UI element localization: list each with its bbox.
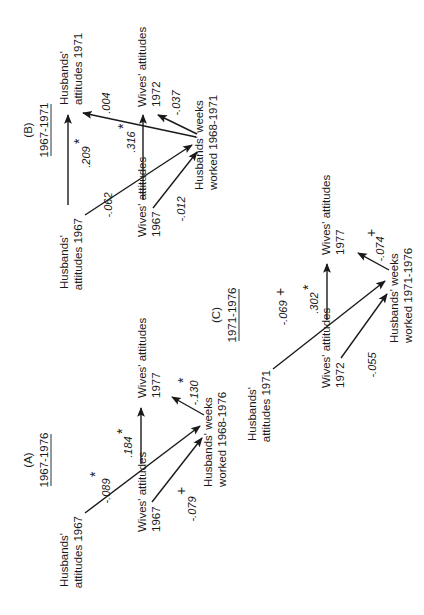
svg-text:1977: 1977 <box>150 372 162 398</box>
coef-a-wives-to-weeks: -.079 <box>186 496 198 521</box>
arrow-c-wives-to-weeks <box>341 294 387 358</box>
svg-text:worked 1968-1971: worked 1968-1971 <box>207 95 219 191</box>
svg-text:1967: 1967 <box>150 506 162 532</box>
coef-a-wives-to-wives: .184 <box>122 436 134 457</box>
node-b-husbands-weeks-worked: Husbands' weeks worked 1968-1971 <box>193 95 219 191</box>
svg-text:attitudes 1967: attitudes 1967 <box>72 516 84 588</box>
node-c-wives-attitudes-1977: Wives' attitudes 1977 <box>320 175 346 255</box>
node-a-wives-attitudes-1977: Wives' attitudes 1977 <box>136 318 162 398</box>
coef-b-husbands-to-husbands: .209 <box>80 146 92 167</box>
panel-a-letter: (A) <box>22 452 34 468</box>
coef-c-husbands-to-weeks: -.069 <box>277 300 289 325</box>
svg-text:Husbands' weeks: Husbands' weeks <box>202 397 214 487</box>
svg-text:Wives' attitudes: Wives' attitudes <box>320 175 332 255</box>
svg-text:Wives' attitudes: Wives' attitudes <box>136 452 148 532</box>
path-diagram-page: (A) 1967-1976 Husbands' attitudes 1967 W… <box>0 0 424 615</box>
svg-text:1972: 1972 <box>150 81 162 107</box>
arrow-b-weeks-to-wives <box>158 115 197 134</box>
panel-c: (C) 1971-1976 Husbands' attitudes 1971 W… <box>210 175 414 443</box>
svg-text:Husbands': Husbands' <box>58 533 70 587</box>
svg-text:1967: 1967 <box>150 211 162 237</box>
svg-text:worked 1971-1976: worked 1971-1976 <box>402 248 414 344</box>
node-c-husbands-attitudes-1971: Husbands' attitudes 1971 <box>246 370 272 442</box>
svg-text:Husbands' weeks: Husbands' weeks <box>193 100 205 190</box>
coef-a-husbands-to-weeks: -.089 <box>100 478 112 503</box>
svg-text:Husbands' weeks: Husbands' weeks <box>388 253 400 343</box>
coef-c-weeks-to-wives: -.074 <box>374 236 386 261</box>
panel-a: (A) 1967-1976 Husbands' attitudes 1967 W… <box>22 318 228 589</box>
coef-a-weeks-to-wives: -.130 <box>188 380 200 406</box>
sig-c-weeks-to-wives: + <box>363 229 379 237</box>
coef-b-husbands-to-weeks: -.062 <box>102 192 114 217</box>
svg-text:1977: 1977 <box>334 229 346 255</box>
node-b-husbands-attitudes-1967: Husbands' attitudes 1967 <box>58 218 84 290</box>
sig-a-wives-to-wives: * <box>114 428 130 434</box>
svg-text:Husbands': Husbands' <box>58 235 70 289</box>
sig-c-wives-to-wives: * <box>300 284 316 290</box>
svg-text:Wives' attitudes: Wives' attitudes <box>136 318 148 398</box>
sig-a-husbands-to-weeks: * <box>87 471 103 477</box>
sig-b-husbands-to-husbands: * <box>71 138 87 144</box>
svg-text:1972: 1972 <box>334 362 346 388</box>
svg-text:attitudes 1967: attitudes 1967 <box>72 218 84 290</box>
coef-b-weeks-to-wives: -.037 <box>170 90 182 116</box>
panel-c-period: 1971-1976 <box>226 288 238 343</box>
coef-b-wives-to-wives: .316 <box>125 130 137 152</box>
node-a-wives-attitudes-1967: Wives' attitudes 1967 <box>136 452 162 532</box>
coef-b-weeks-to-husbands: .004 <box>100 92 112 113</box>
panel-b-letter: (B) <box>22 122 34 138</box>
node-b-wives-attitudes-1972: Wives' attitudes 1972 <box>136 27 162 107</box>
node-b-wives-attitudes-1967: Wives' attitudes 1967 <box>136 157 162 237</box>
panel-b-period: 1967-1971 <box>38 103 50 158</box>
svg-text:attitudes 1971: attitudes 1971 <box>72 33 84 105</box>
svg-text:Wives' attitudes: Wives' attitudes <box>136 27 148 107</box>
svg-text:Wives' attitudes: Wives' attitudes <box>320 308 332 388</box>
node-a-husbands-attitudes-1967: Husbands' attitudes 1967 <box>58 516 84 588</box>
svg-text:Wives' attitudes: Wives' attitudes <box>136 157 148 237</box>
panel-a-period: 1967-1976 <box>38 433 50 488</box>
node-b-husbands-attitudes-1971: Husbands' attitudes 1971 <box>58 33 84 105</box>
coef-c-wives-to-weeks: -.055 <box>366 352 378 378</box>
sig-c-husbands-to-weeks: + <box>272 288 288 296</box>
sig-b-wives-to-wives: * <box>115 123 131 129</box>
node-a-husbands-weeks-worked: Husbands' weeks worked 1968-1976 <box>202 392 228 488</box>
panel-c-letter: (C) <box>210 307 222 323</box>
svg-text:Husbands': Husbands' <box>58 51 70 105</box>
panel-b: (B) 1967-1971 Husbands' attitudes 1967 H… <box>22 27 219 291</box>
sig-a-wives-to-weeks: + <box>173 487 189 495</box>
coef-c-wives-to-wives: .302 <box>308 292 320 313</box>
node-c-husbands-weeks-worked: Husbands' weeks worked 1971-1976 <box>388 248 414 344</box>
svg-text:attitudes 1971: attitudes 1971 <box>260 370 272 442</box>
sig-a-weeks-to-wives: * <box>175 377 191 383</box>
coef-b-wives-to-weeks: -.012 <box>175 196 187 221</box>
svg-text:worked 1968-1976: worked 1968-1976 <box>216 392 228 488</box>
svg-text:Husbands': Husbands' <box>246 387 258 441</box>
node-c-wives-attitudes-1972: Wives' attitudes 1972 <box>320 308 346 388</box>
